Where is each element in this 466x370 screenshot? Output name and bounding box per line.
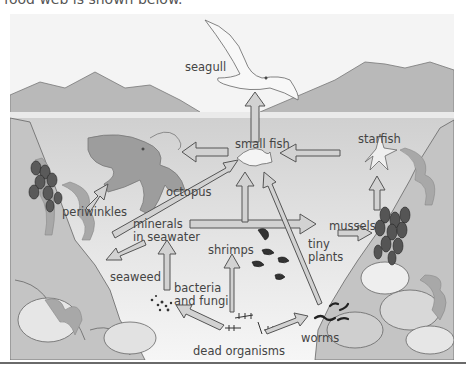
label-periwinkles: periwinkles bbox=[62, 206, 127, 219]
label-shrimps: shrimps bbox=[208, 244, 254, 257]
label-mussels: mussels bbox=[329, 220, 376, 233]
label-bacteria-line2: and fungi bbox=[174, 295, 228, 308]
bottom-divider bbox=[0, 362, 466, 364]
label-small-fish: small fish bbox=[235, 138, 290, 151]
label-starfish: starfish bbox=[358, 133, 401, 146]
label-dead-organisms: dead organisms bbox=[193, 345, 285, 358]
diagram-artwork bbox=[10, 14, 454, 360]
label-seagull: seagull bbox=[185, 61, 226, 74]
label-octopus: octopus bbox=[166, 186, 211, 199]
label-minerals-line2: in seawater bbox=[133, 231, 200, 244]
caption-text: food web is shown below. bbox=[4, 0, 183, 7]
food-web-diagram: seagull small fish starfish octopus peri… bbox=[10, 14, 454, 360]
label-worms: worms bbox=[301, 332, 339, 345]
label-tiny-plants-line2: plants bbox=[308, 251, 343, 264]
label-seaweed: seaweed bbox=[110, 271, 161, 284]
